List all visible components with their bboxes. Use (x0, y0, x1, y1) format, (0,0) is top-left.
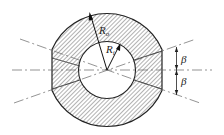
beta-upper-label: β (180, 53, 187, 65)
cross-section-diagram: Ro Ri β β (0, 0, 224, 135)
beta-lower-label: β (180, 75, 187, 87)
beta-dimension (175, 47, 178, 95)
